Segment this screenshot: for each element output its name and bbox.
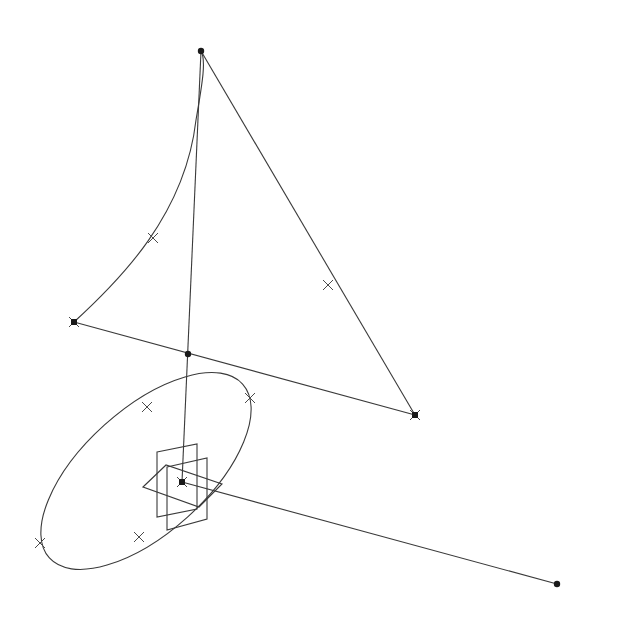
line-left-right [74,322,415,415]
vertex-left[interactable] [69,317,79,327]
ellipse-path [8,338,284,604]
coordinate-planes-gizmo [143,444,222,530]
x-tick-icon [35,538,45,548]
vertex-apex[interactable] [198,48,204,54]
line-apex-right [201,51,415,415]
plane-vertical-a [157,444,197,517]
line-apex-center [182,51,201,482]
wireframe-canvas [0,0,622,621]
x-tick-icon [323,280,333,290]
x-tick-icon [245,393,255,403]
vertex-end[interactable] [554,581,560,587]
x-tick-icon [134,532,144,542]
curve-arc-left-apex [74,51,203,322]
vertex-points [69,48,560,587]
plane-vertical-b [167,458,207,530]
spline-curves [74,51,203,322]
orbit-ellipse [8,338,284,604]
vertex-mid[interactable] [185,351,191,357]
line-center-end [182,482,557,584]
vertex-right[interactable] [410,410,420,420]
x-tick-icon [142,402,152,412]
tick-marks [35,233,333,548]
edge-lines [74,51,557,584]
